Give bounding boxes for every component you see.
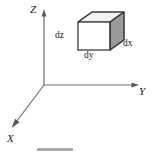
caption-rule — [37, 148, 73, 151]
x-axis-line — [17, 85, 45, 122]
cube-front-face — [78, 22, 110, 50]
x-axis — [12, 85, 45, 128]
x-axis-arrowhead — [12, 119, 20, 128]
x-axis-label: X — [7, 133, 14, 144]
z-axis-label: Z — [30, 4, 36, 15]
dz-label: dz — [55, 31, 64, 41]
z-axis-arrowhead — [42, 9, 47, 17]
y-axis-label: Y — [139, 86, 145, 97]
y-axis-arrowhead — [132, 83, 140, 88]
cube-group — [78, 12, 124, 50]
diagram-canvas — [0, 0, 152, 155]
caption-strip — [0, 146, 152, 155]
z-axis — [42, 9, 47, 85]
dy-label: dy — [84, 51, 94, 61]
figure-container: Z Y X dz dx dy — [0, 0, 152, 155]
y-axis — [44, 83, 139, 88]
dx-label: dx — [123, 39, 133, 49]
